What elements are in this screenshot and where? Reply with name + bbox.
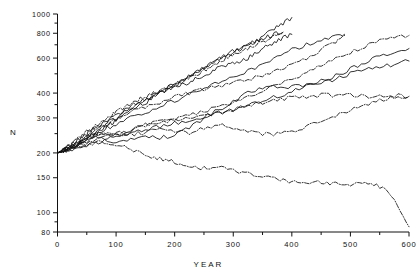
svg-text:0: 0 bbox=[55, 240, 60, 249]
svg-text:600: 600 bbox=[401, 240, 416, 249]
svg-text:300: 300 bbox=[37, 114, 51, 123]
svg-text:100: 100 bbox=[37, 208, 51, 217]
svg-text:200: 200 bbox=[167, 240, 182, 249]
series-line-12 bbox=[58, 141, 410, 227]
series-line-5 bbox=[58, 35, 345, 152]
series-line-2 bbox=[58, 32, 284, 153]
series-line-4 bbox=[58, 33, 284, 153]
series-line-6 bbox=[58, 34, 345, 153]
svg-text:300: 300 bbox=[226, 240, 241, 249]
svg-text:80: 80 bbox=[41, 228, 50, 237]
chart-tick-labels: 8010015020030040060080010000100200300400… bbox=[32, 10, 416, 249]
svg-text:1000: 1000 bbox=[32, 10, 50, 19]
svg-text:500: 500 bbox=[343, 240, 358, 249]
svg-text:400: 400 bbox=[284, 240, 299, 249]
svg-text:400: 400 bbox=[37, 89, 51, 98]
series-line-9 bbox=[58, 60, 410, 153]
svg-text:150: 150 bbox=[37, 173, 51, 182]
chart-series-group bbox=[58, 18, 410, 227]
svg-text:200: 200 bbox=[37, 149, 51, 158]
x-axis-label: YEAR bbox=[0, 260, 417, 269]
chart-figure: 8010015020030040060080010000100200300400… bbox=[0, 0, 417, 280]
chart-plot-area: 8010015020030040060080010000100200300400… bbox=[0, 0, 417, 280]
y-axis-label: N bbox=[10, 128, 16, 137]
svg-text:800: 800 bbox=[37, 29, 51, 38]
svg-text:600: 600 bbox=[37, 54, 51, 63]
svg-text:100: 100 bbox=[109, 240, 124, 249]
